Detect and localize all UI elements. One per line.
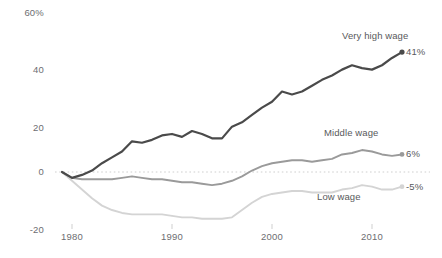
endpoint-dot-low-wage (400, 184, 405, 189)
endpoint-dot-very-high-wage (399, 49, 404, 54)
y-tick-label-40: 40 (4, 64, 44, 75)
series-line-middle-wage (62, 150, 402, 185)
x-tick-label-2000: 2000 (252, 231, 292, 242)
y-tick-label-0: 0 (4, 166, 44, 177)
series-label-middle-wage: Middle wage (324, 127, 378, 138)
endpoint-value-very-high-wage: 41% (406, 46, 425, 57)
endpoint-value-low-wage: -5% (406, 181, 423, 192)
series-label-very-high-wage: Very high wage (342, 30, 408, 41)
series-line-very-high-wage (62, 52, 402, 178)
x-tick-label-2010: 2010 (352, 231, 392, 242)
wage-growth-chart: 60% 40 20 0 -20 1980 1990 2000 2010 Very… (0, 0, 442, 258)
x-tick-label-1990: 1990 (152, 231, 192, 242)
endpoint-value-middle-wage: 6% (406, 148, 420, 159)
series-endpoint-markers (399, 49, 404, 189)
x-axis-ticks-group (72, 224, 372, 229)
y-tick-label-20: 20 (4, 122, 44, 133)
x-tick-label-1980: 1980 (52, 231, 92, 242)
series-label-low-wage: Low wage (317, 191, 361, 202)
endpoint-dot-middle-wage (400, 152, 405, 157)
y-tick-label-60: 60% (4, 7, 44, 18)
y-tick-label-minus-20: -20 (4, 224, 44, 235)
